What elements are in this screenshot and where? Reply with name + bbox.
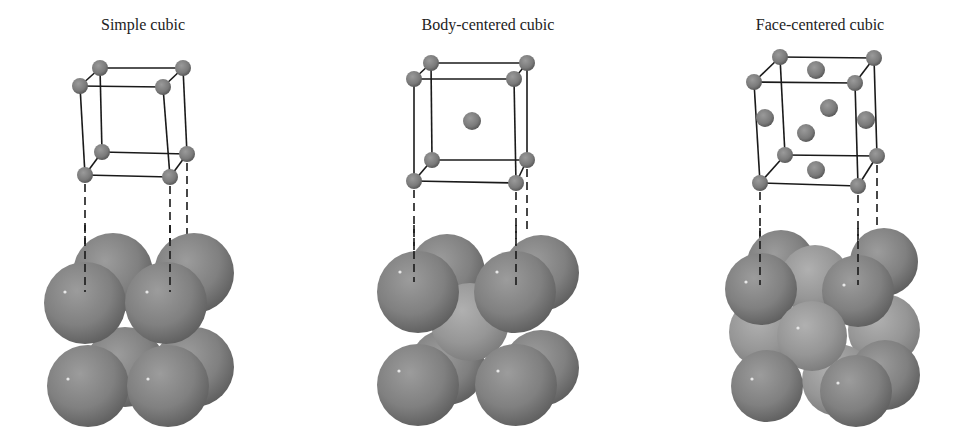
lattice-diagram-svg bbox=[0, 0, 955, 448]
unit-cell-simple-cubic bbox=[80, 68, 187, 177]
space-filling-model-simple-cubic bbox=[44, 233, 234, 427]
space-filling-model-face-centered-cubic bbox=[725, 228, 920, 427]
unit-cell-atoms-simple-cubic bbox=[72, 60, 195, 185]
space-filling-model-body-centered-cubic bbox=[377, 234, 579, 426]
